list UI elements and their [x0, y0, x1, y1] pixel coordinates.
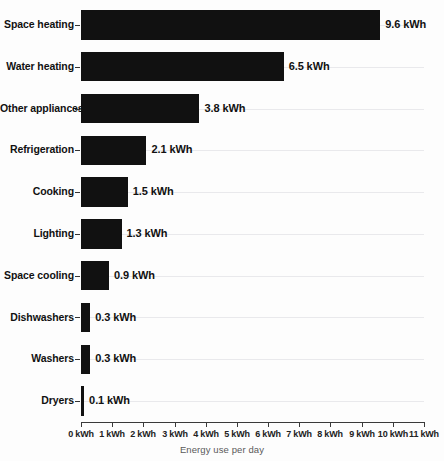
bar-value-label: 3.8 kWh	[204, 102, 245, 114]
bar	[81, 303, 90, 332]
category-label: Space cooling	[0, 269, 74, 281]
category-label: Lighting	[0, 227, 74, 239]
x-axis-tick-label: 7 kWh	[286, 429, 312, 439]
x-axis-tick-label: 2 kWh	[130, 429, 156, 439]
bar	[81, 10, 380, 39]
x-axis-tick	[393, 423, 394, 427]
x-axis-tick	[206, 423, 207, 427]
x-axis-tick-label: 6 kWh	[255, 429, 281, 439]
bar-value-label: 1.3 kWh	[127, 227, 168, 239]
x-axis-tick	[268, 423, 269, 427]
x-axis-tick-label: 11 kWh	[409, 429, 439, 439]
x-axis-tick	[175, 423, 176, 427]
bar-value-label: 6.5 kWh	[289, 60, 330, 72]
gridline	[81, 401, 424, 402]
x-axis-title: Energy use per day	[0, 444, 444, 455]
x-axis-line	[81, 422, 425, 423]
bar-value-label: 1.5 kWh	[133, 185, 174, 197]
category-label: Washers	[0, 352, 74, 364]
bar-value-label: 0.1 kWh	[89, 394, 130, 406]
x-axis-tick	[143, 423, 144, 427]
x-axis-tick-label: 1 kWh	[99, 429, 125, 439]
bar	[81, 386, 84, 415]
category-axis: Space heatingWater heatingOther applianc…	[0, 4, 74, 422]
bar	[81, 177, 128, 206]
bar	[81, 261, 109, 290]
x-axis-tick	[424, 423, 425, 427]
x-axis-tick	[299, 423, 300, 427]
energy-use-bar-chart: Space heatingWater heatingOther applianc…	[0, 0, 444, 461]
x-axis-tick	[237, 423, 238, 427]
bar	[81, 136, 146, 165]
category-tick	[75, 276, 80, 277]
bar	[81, 219, 122, 248]
x-axis-tick-label: 9 kWh	[349, 429, 375, 439]
category-tick	[75, 67, 80, 68]
x-axis-tick	[362, 423, 363, 427]
x-axis-tick-label: 5 kWh	[224, 429, 250, 439]
category-tick	[75, 234, 80, 235]
category-label: Cooking	[0, 185, 74, 197]
plot-area: 9.6 kWh6.5 kWh3.8 kWh2.1 kWh1.5 kWh1.3 k…	[81, 4, 424, 422]
bar-value-label: 0.3 kWh	[95, 311, 136, 323]
bar	[81, 94, 199, 123]
x-axis-tick-label: 0 kWh	[68, 429, 94, 439]
category-label: Other appliances	[0, 102, 74, 114]
category-label: Space heating	[0, 18, 74, 30]
bar	[81, 345, 90, 374]
category-tick	[75, 25, 80, 26]
bar-value-label: 9.6 kWh	[385, 18, 426, 30]
category-tick	[75, 109, 80, 110]
category-tick	[75, 317, 80, 318]
bar-value-label: 0.3 kWh	[95, 352, 136, 364]
x-axis-tick	[112, 423, 113, 427]
category-label: Dishwashers	[0, 311, 74, 323]
category-label: Dryers	[0, 394, 74, 406]
bar	[81, 52, 284, 81]
category-tick	[75, 150, 80, 151]
category-label: Water heating	[0, 60, 74, 72]
x-axis-tick-label: 8 kWh	[317, 429, 343, 439]
x-axis-tick-label: 4 kWh	[193, 429, 219, 439]
x-axis-tick-label: 10 kWh	[378, 429, 408, 439]
bar-value-label: 0.9 kWh	[114, 269, 155, 281]
category-tick	[75, 359, 80, 360]
x-axis-tick	[330, 423, 331, 427]
bar-value-label: 2.1 kWh	[151, 143, 192, 155]
category-tick	[75, 401, 80, 402]
category-label: Refrigeration	[0, 143, 74, 155]
category-tick	[75, 192, 80, 193]
x-axis-tick-label: 3 kWh	[162, 429, 188, 439]
x-axis-tick	[81, 423, 82, 427]
